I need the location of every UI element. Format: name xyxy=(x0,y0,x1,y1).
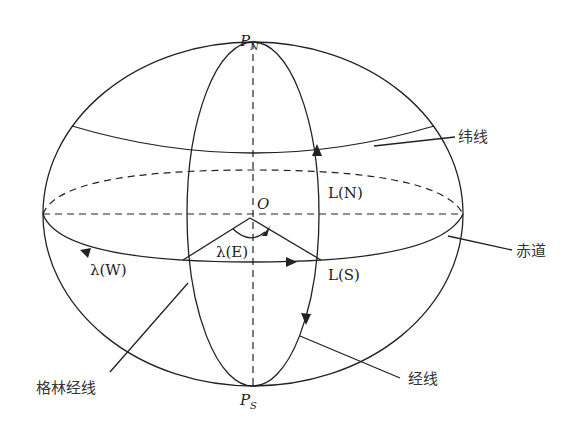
radius-right xyxy=(250,218,321,260)
arrow-west-icon xyxy=(80,248,91,258)
globe-diagram: PN PS O L(N) L(S) λ(E) λ(W) 纬线 赤道 经线 格林经… xyxy=(0,0,588,431)
label-north-pole: PN xyxy=(239,32,260,52)
label-meridian: 经线 xyxy=(408,370,438,388)
label-equator: 赤道 xyxy=(516,242,546,260)
arrow-south-icon xyxy=(301,313,311,325)
leader-meridian xyxy=(300,336,400,378)
label-latitude-south: L(S) xyxy=(328,266,360,284)
label-parallel: 纬线 xyxy=(458,128,488,146)
label-center: O xyxy=(257,195,269,213)
label-greenwich-meridian: 格林经线 xyxy=(36,379,96,397)
label-longitude-east: λ(E) xyxy=(216,243,248,261)
label-south-pole: PS xyxy=(239,391,257,411)
leader-equator xyxy=(448,236,512,250)
label-longitude-west: λ(W) xyxy=(90,261,127,279)
leader-greenwich xyxy=(110,283,188,372)
longitude-angle-arc xyxy=(233,229,265,238)
label-latitude-north: L(N) xyxy=(328,184,363,202)
arrow-east-icon xyxy=(286,257,297,267)
